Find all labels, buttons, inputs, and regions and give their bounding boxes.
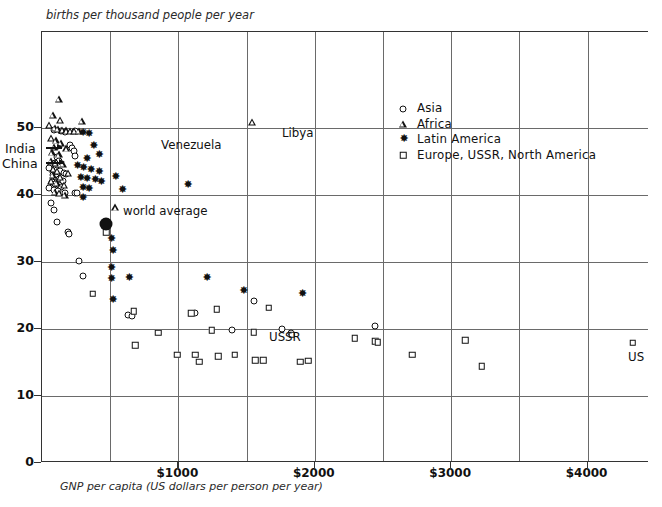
legend-label: Asia — [417, 101, 443, 115]
data-point-asia — [250, 298, 257, 305]
y-axis-tick-mark — [34, 328, 41, 329]
y-axis-title: births per thousand people per year — [46, 8, 254, 22]
data-point-latin-america — [239, 289, 246, 296]
data-point-europe-ussr-north-america — [297, 358, 304, 365]
data-point-europe-ussr-north-america — [188, 310, 195, 317]
x-axis-tick-mark — [314, 462, 315, 469]
circle-open-icon — [400, 105, 407, 112]
annotation-china: China — [2, 156, 38, 171]
data-point-latin-america — [298, 292, 305, 299]
gridline-horizontal — [42, 262, 648, 263]
data-point-africa — [61, 191, 69, 198]
data-point-latin-america — [97, 179, 104, 186]
y-axis-tick-label: 40 — [0, 186, 34, 201]
data-point-europe-ussr-north-america — [266, 305, 273, 312]
data-point-latin-america — [118, 188, 125, 195]
annotation-libya: Libya — [282, 126, 314, 140]
data-point-africa — [78, 117, 86, 124]
data-point-europe-ussr-north-america — [192, 352, 199, 359]
gridline-horizontal — [42, 128, 648, 129]
legend-label: Latin America — [417, 132, 501, 146]
y-axis-tick-mark — [34, 194, 41, 195]
annotation-world-average: world average — [123, 204, 208, 218]
data-point-world-average — [100, 218, 113, 231]
y-axis-tick-mark — [34, 127, 41, 128]
data-point-latin-america — [107, 276, 114, 283]
annotation-arrow-india — [46, 147, 62, 149]
data-point-asia — [54, 219, 61, 226]
annotation-us: US — [628, 350, 644, 364]
annotation-venezuela: Venezuela — [161, 138, 222, 152]
plot-area — [41, 31, 648, 462]
data-point-latin-america — [78, 195, 85, 202]
x-axis-tick-mark — [177, 462, 178, 469]
gridline-horizontal — [42, 195, 648, 196]
data-point-europe-ussr-north-america — [409, 352, 416, 359]
x-axis-tick-mark — [450, 462, 451, 469]
data-point-latin-america — [107, 236, 114, 243]
data-point-europe-ussr-north-america — [630, 339, 637, 346]
annotation-ussr: USSR — [269, 330, 301, 344]
data-point-europe-ussr-north-america — [215, 353, 222, 360]
gridline-horizontal — [42, 329, 648, 330]
data-point-africa — [248, 119, 256, 126]
y-axis-tick-label: 10 — [0, 387, 34, 402]
data-point-europe-ussr-north-america — [174, 352, 181, 359]
y-axis-tick-mark — [34, 395, 41, 396]
data-point-europe-ussr-north-america — [214, 306, 221, 313]
square-open-icon — [400, 152, 407, 159]
cropped-heading-line — [44, 0, 604, 5]
data-point-europe-ussr-north-america — [196, 358, 203, 365]
data-point-asia — [80, 273, 87, 280]
data-point-latin-america — [183, 182, 190, 189]
data-point-europe-ussr-north-america — [251, 329, 258, 336]
data-point-europe-ussr-north-america — [231, 352, 238, 359]
data-point-latin-america — [108, 298, 115, 305]
data-point-latin-america — [111, 174, 118, 181]
y-axis-tick-label: 50 — [0, 119, 34, 134]
y-axis-tick-mark — [34, 462, 41, 463]
data-point-africa — [55, 95, 63, 102]
y-axis-tick-label: 0 — [0, 454, 34, 469]
gridline-horizontal — [42, 396, 648, 397]
data-point-europe-ussr-north-america — [375, 339, 382, 346]
data-point-europe-ussr-north-america — [131, 308, 138, 315]
data-point-asia — [75, 258, 82, 265]
data-point-latin-america — [85, 132, 92, 139]
annotation-india: India — [5, 141, 36, 156]
data-point-africa — [60, 181, 68, 188]
data-point-europe-ussr-north-america — [252, 357, 259, 364]
data-point-latin-america — [203, 276, 210, 283]
data-point-africa — [62, 145, 70, 152]
data-point-africa — [56, 117, 64, 124]
data-point-latin-america — [95, 153, 102, 160]
legend-label: Europe, USSR, North America — [417, 148, 596, 162]
annotation-arrow-china — [46, 162, 64, 164]
data-point-africa — [111, 204, 119, 211]
star-filled-icon — [400, 136, 407, 143]
legend-label: Africa — [417, 117, 452, 131]
y-axis-tick-label: 30 — [0, 253, 34, 268]
y-axis-tick-label: 20 — [0, 320, 34, 335]
data-point-europe-ussr-north-america — [478, 363, 485, 370]
data-point-africa — [64, 169, 72, 176]
data-point-asia — [65, 231, 72, 238]
data-point-europe-ussr-north-america — [305, 358, 312, 365]
y-axis-tick-mark — [34, 261, 41, 262]
data-point-europe-ussr-north-america — [132, 342, 139, 349]
data-point-asia — [228, 327, 235, 334]
data-point-europe-ussr-north-america — [462, 337, 469, 344]
x-axis-tick-mark — [587, 462, 588, 469]
data-point-europe-ussr-north-america — [155, 329, 162, 336]
data-point-latin-america — [125, 276, 132, 283]
data-point-europe-ussr-north-america — [90, 291, 97, 298]
chart-canvas: births per thousand people per year GNP … — [0, 0, 662, 507]
data-point-europe-ussr-north-america — [260, 357, 267, 364]
data-point-europe-ussr-north-america — [208, 327, 215, 334]
data-point-latin-america — [108, 249, 115, 256]
data-point-africa — [55, 151, 63, 158]
data-point-europe-ussr-north-america — [351, 335, 358, 342]
x-axis-title: GNP per capita (US dollars per person pe… — [60, 480, 323, 493]
data-point-asia — [372, 322, 379, 329]
data-point-asia — [50, 207, 57, 214]
